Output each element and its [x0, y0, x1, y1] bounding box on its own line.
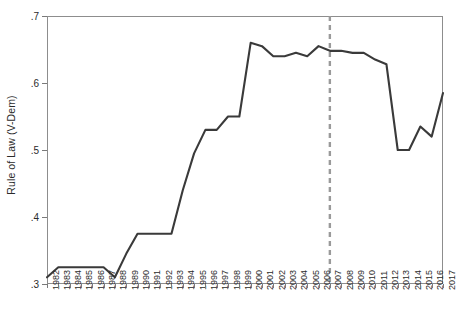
x-tick-mark	[420, 284, 421, 288]
x-tick-mark	[70, 284, 71, 288]
x-tick-mark	[352, 284, 353, 288]
x-tick-mark	[171, 284, 172, 288]
y-axis-title-label: Rule of Law (V-Dem)	[5, 95, 17, 194]
x-tick-mark	[194, 284, 195, 288]
x-tick-mark	[228, 284, 229, 288]
x-tick-mark	[307, 284, 308, 288]
plot-area	[47, 16, 443, 284]
y-tick-label: .5	[19, 145, 39, 156]
data-series-line	[47, 16, 443, 284]
y-axis-title: Rule of Law (V-Dem)	[0, 0, 22, 290]
x-tick-mark	[296, 284, 297, 288]
x-tick-mark	[409, 284, 410, 288]
x-tick-mark	[341, 284, 342, 288]
x-tick-mark	[262, 284, 263, 288]
y-tick-label: .3	[19, 279, 39, 290]
x-tick-mark	[273, 284, 274, 288]
x-tick-mark	[126, 284, 127, 288]
x-tick-mark	[443, 284, 444, 288]
x-tick-mark	[81, 284, 82, 288]
y-tick-mark	[42, 284, 47, 285]
x-tick-mark	[251, 284, 252, 288]
x-tick-mark	[92, 284, 93, 288]
x-tick-mark	[47, 284, 48, 288]
x-tick-mark	[160, 284, 161, 288]
x-tick-mark	[375, 284, 376, 288]
y-tick-label: .7	[19, 11, 39, 22]
y-tick-label: .4	[19, 212, 39, 223]
x-tick-mark	[239, 284, 240, 288]
x-tick-mark	[398, 284, 399, 288]
x-tick-mark	[330, 284, 331, 288]
x-tick-mark	[319, 284, 320, 288]
series-polyline	[47, 43, 443, 277]
x-tick-mark	[205, 284, 206, 288]
x-tick-mark	[285, 284, 286, 288]
x-tick-mark	[58, 284, 59, 288]
x-tick-mark	[432, 284, 433, 288]
x-tick-mark	[138, 284, 139, 288]
x-tick-mark	[386, 284, 387, 288]
x-tick-mark	[104, 284, 105, 288]
y-tick-label: .6	[19, 78, 39, 89]
x-tick-mark	[217, 284, 218, 288]
x-tick-mark	[364, 284, 365, 288]
x-tick-mark	[115, 284, 116, 288]
x-tick-mark	[149, 284, 150, 288]
x-tick-label: 2017	[447, 270, 457, 290]
x-tick-mark	[183, 284, 184, 288]
